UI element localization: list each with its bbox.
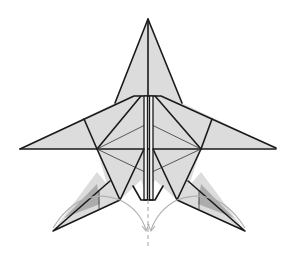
origami-diagram xyxy=(0,0,289,261)
